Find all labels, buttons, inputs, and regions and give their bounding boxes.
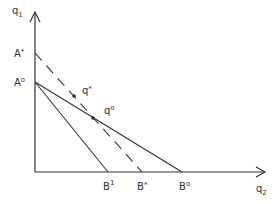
line-a0-b0 <box>35 82 182 172</box>
b-star-label: B* <box>137 181 148 192</box>
line-a0-b1 <box>35 82 108 172</box>
line-astar-bstar <box>35 53 142 172</box>
budget-line-diagram: q1 q2 A* Ao q* qo B1 B* Bo <box>0 0 279 204</box>
q-zero-point <box>91 116 95 120</box>
b-zero-label: Bo <box>179 180 190 192</box>
b-one-label: B1 <box>103 179 114 192</box>
diagram-svg: q1 q2 A* Ao q* qo B1 B* Bo <box>0 0 279 204</box>
a-zero-label: Ao <box>14 76 25 88</box>
q-star-label: q* <box>82 85 92 96</box>
a-star-label: A* <box>14 48 25 59</box>
q-star-point <box>72 94 76 98</box>
y-axis-label: q1 <box>12 5 23 19</box>
x-axis-label: q2 <box>256 183 267 197</box>
q-zero-label: qo <box>104 104 115 116</box>
